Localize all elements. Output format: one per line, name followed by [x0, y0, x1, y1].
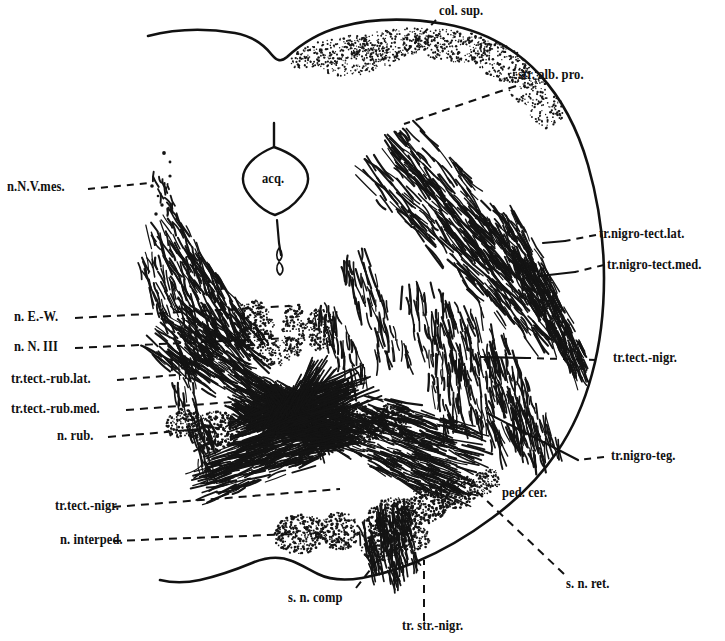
anatomical-figure: col. sup. str. alb. pro. n.N.V.mes. acq.… [0, 0, 725, 641]
leader-tr-tect-rub-med [126, 401, 246, 410]
leader-tr-nigro-tect-lat [565, 235, 596, 241]
label-tr-nigro-tect-lat: tr.nigro-tect.lat. [599, 227, 684, 241]
label-n-n-iii: n. N. III [14, 340, 58, 354]
label-ped-cer: ped. cer. [502, 486, 547, 500]
leader-n-n-v-mes [88, 183, 150, 189]
leader-tr-nigro-tect-med [575, 265, 604, 272]
label-tr-nigro-tect-med: tr.nigro-tect.med. [607, 258, 701, 272]
label-s-n-ret: s. n. ret. [566, 577, 609, 591]
label-n-e-w: n. E.-W. [14, 310, 58, 324]
leader-tr-nigro-teg [578, 457, 604, 460]
leader-str-alb-pro [404, 86, 516, 124]
pointer-tr-nigro-tect-lat [543, 241, 565, 243]
label-tr-str-nigr: tr. str.-nigr. [402, 619, 463, 633]
label-tr-nigro-teg: tr.nigro-teg. [611, 449, 675, 463]
label-n-rub: n. rub. [57, 429, 93, 443]
leader-tr-tect-rub-lat [117, 375, 176, 380]
leader-tr-tect-nigr-right [527, 358, 596, 360]
cerebral-aqueduct-shape [243, 123, 308, 275]
label-tr-tect-nigr-right: tr.tect.-nigr. [613, 351, 677, 365]
label-s-n-comp: s. n. comp [288, 591, 342, 605]
label-tr-tect-rub-med: tr.tect.-rub.med. [11, 402, 100, 416]
leader-n-interped [113, 534, 296, 541]
label-tr-tect-nigr-left: tr.tect.-nigr. [55, 499, 119, 513]
label-n-interped: n. interped. [60, 533, 123, 547]
label-str-alb-pro: str. alb. pro. [518, 68, 584, 82]
label-acq: acq. [262, 172, 284, 186]
label-n-n-v-mes: n.N.V.mes. [7, 180, 65, 194]
label-col-sup: col. sup. [439, 4, 483, 18]
pointer-tr-tect-nigr-right [481, 357, 527, 358]
label-tr-tect-rub-lat: tr.tect.-rub.lat. [11, 372, 91, 386]
